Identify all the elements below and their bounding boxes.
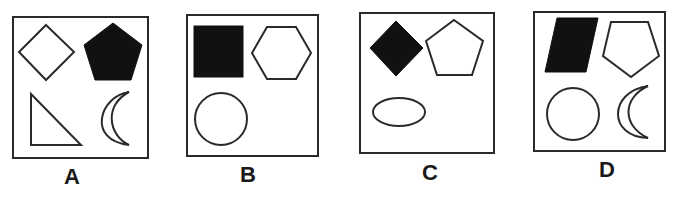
circle-outline-icon: [547, 88, 599, 140]
option-b[interactable]: B: [187, 15, 318, 187]
options-figure: A B C D: [0, 0, 676, 198]
ellipse-outline-icon: [373, 98, 425, 126]
option-c-label: C: [422, 160, 438, 185]
option-c[interactable]: C: [360, 13, 494, 185]
diamond-outline-icon: [19, 25, 74, 80]
hexagon-outline-icon: [252, 27, 311, 79]
option-a-label: A: [64, 164, 80, 189]
option-b-label: B: [240, 162, 256, 187]
crescent-outline-icon: [102, 92, 129, 145]
pentagon-outline-icon: [426, 20, 483, 75]
square-filled-icon: [194, 26, 243, 77]
right-triangle-outline-icon: [31, 94, 81, 145]
pentagon-outline-icon: [603, 22, 659, 77]
diamond-filled-icon: [370, 21, 423, 76]
crescent-outline-icon: [618, 86, 648, 138]
option-d-label: D: [599, 157, 615, 182]
pentagon-filled-icon: [84, 23, 142, 80]
option-a[interactable]: A: [13, 17, 148, 189]
circle-outline-icon: [195, 93, 247, 145]
parallelogram-filled-icon: [545, 18, 598, 72]
option-d[interactable]: D: [534, 12, 665, 182]
